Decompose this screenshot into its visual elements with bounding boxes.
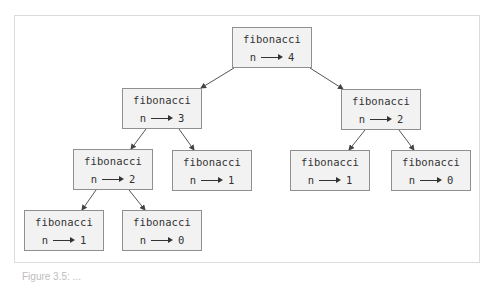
function-name: fibonacci [74,155,152,167]
param-value: 0 [178,234,184,246]
call-node-fib-3: fibonacci n 3 [122,88,202,129]
param-binding: n 1 [173,174,251,186]
param-value: 4 [288,51,294,63]
call-node-fib-1: fibonacci n 1 [172,150,252,191]
call-node-fib-1: fibonacci n 1 [24,210,104,251]
param-binding: n 1 [25,234,103,246]
param-value: 3 [178,112,184,124]
param-name: n [91,173,97,185]
param-value: 2 [397,113,403,125]
param-value: 1 [346,174,352,186]
function-name: fibonacci [342,95,420,107]
arrow-right-icon [102,175,124,183]
function-name: fibonacci [233,33,311,45]
param-binding: n 3 [123,112,201,124]
param-binding: n 4 [233,51,311,63]
function-name: fibonacci [25,216,103,228]
param-name: n [409,174,415,186]
arrow-right-icon [151,114,173,122]
param-value: 1 [80,234,86,246]
call-node-fib-1: fibonacci n 1 [290,150,370,191]
param-binding: n 2 [74,173,152,185]
call-node-fib-0: fibonacci n 0 [391,150,471,191]
param-binding: n 2 [342,113,420,125]
call-node-fib-2-right: fibonacci n 2 [341,89,421,130]
param-name: n [308,174,314,186]
function-name: fibonacci [392,156,470,168]
param-value: 0 [447,174,453,186]
figure-caption: Figure 3.5: ... [22,271,81,282]
param-name: n [359,113,365,125]
arrow-right-icon [53,236,75,244]
param-binding: n 1 [291,174,369,186]
call-node-fib-0: fibonacci n 0 [122,210,202,251]
param-name: n [140,112,146,124]
param-value: 1 [228,174,234,186]
function-name: fibonacci [173,156,251,168]
arrow-right-icon [420,176,442,184]
function-name: fibonacci [123,94,201,106]
function-name: fibonacci [291,156,369,168]
param-name: n [140,234,146,246]
arrow-right-icon [370,115,392,123]
call-node-fib-2-left: fibonacci n 2 [73,149,153,190]
arrow-right-icon [201,176,223,184]
param-binding: n 0 [123,234,201,246]
param-value: 2 [129,173,135,185]
param-name: n [250,51,256,63]
param-name: n [190,174,196,186]
arrow-right-icon [151,236,173,244]
call-node-fib-4: fibonacci n 4 [232,27,312,68]
param-name: n [42,234,48,246]
arrow-right-icon [261,53,283,61]
arrow-right-icon [319,176,341,184]
param-binding: n 0 [392,174,470,186]
function-name: fibonacci [123,216,201,228]
